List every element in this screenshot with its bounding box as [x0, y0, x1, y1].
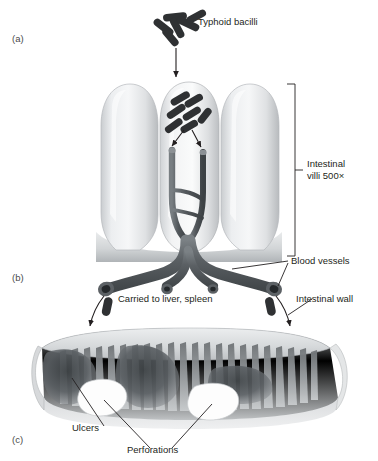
- villus-right: [221, 84, 279, 250]
- leader-blood-vessels-lower: [278, 263, 288, 286]
- label-perforations: Perforations: [127, 444, 178, 456]
- label-intestinal-wall: Intestinal wall: [296, 293, 353, 305]
- label-carried-to-liver-spleen: Carried to liver, spleen: [118, 293, 213, 305]
- panel-label-c: (c): [12, 434, 23, 445]
- intestinal-wall-segment: [32, 328, 348, 429]
- panel-label-a: (a): [12, 33, 24, 44]
- wall-left-cut-face: [32, 346, 44, 410]
- label-typhoid-bacilli: Typhoid bacilli: [198, 16, 258, 28]
- panel-label-b: (b): [12, 272, 24, 283]
- label-intestinal-villi-line1: Intestinal: [307, 158, 345, 169]
- label-blood-vessels: Blood vessels: [291, 255, 350, 267]
- label-intestinal-villi: Intestinal villi 500×: [307, 158, 367, 182]
- typhoid-bacilli-cluster: [152, 8, 207, 47]
- villus-left: [101, 84, 158, 250]
- label-intestinal-villi-line2: villi 500×: [307, 170, 344, 181]
- villi-bracket: [287, 84, 295, 256]
- leader-blood-vessels-upper: [232, 261, 288, 269]
- label-ulcers: Ulcers: [72, 422, 99, 434]
- typhoid-pathogenesis-figure: [0, 0, 378, 461]
